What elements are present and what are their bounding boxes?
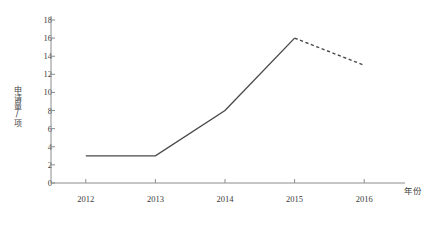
x-axis-ticks — [86, 179, 364, 183]
data-series-lines — [86, 38, 364, 156]
line-chart: 申请量/项 年份 024681012141618 201220132014201… — [0, 0, 438, 234]
y-axis-ticks — [51, 20, 55, 183]
series-projected — [295, 38, 365, 65]
series-actual — [86, 38, 295, 156]
axis-lines — [51, 16, 405, 183]
plot-area — [0, 0, 438, 234]
